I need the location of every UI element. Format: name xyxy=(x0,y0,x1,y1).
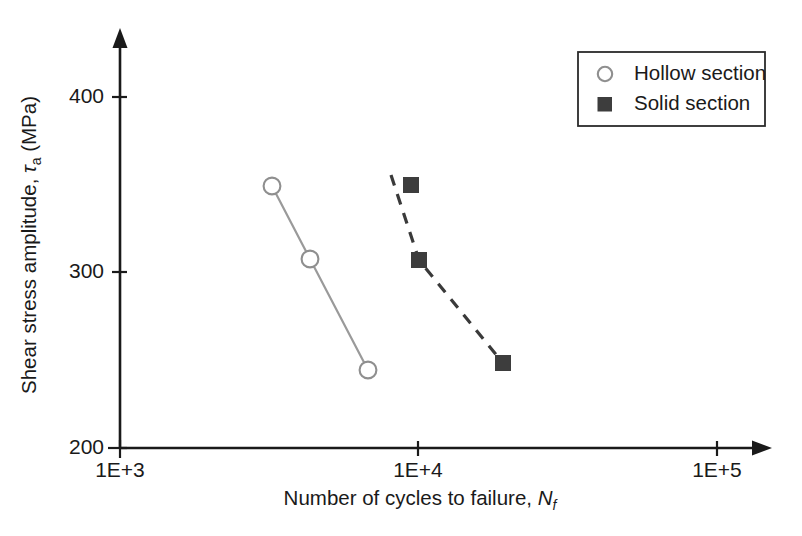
x-axis-title: Number of cycles to failure, Nf xyxy=(284,486,559,513)
y-axis-ticks xyxy=(108,97,127,448)
x-tick-label-1e4: 1E+4 xyxy=(393,458,443,481)
hollow-section-point-3 xyxy=(360,362,377,379)
solid-section-trend-line xyxy=(391,175,503,363)
hollow-section-trend-line xyxy=(272,186,368,370)
chart-canvas: 400 300 200 1E+3 1E+4 1E+5 Number of cyc… xyxy=(0,0,802,536)
y-axis-title: Shear stress amplitude, τa (MPa) xyxy=(17,96,44,394)
solid-section-point-1 xyxy=(404,178,419,193)
y-axis-arrow xyxy=(113,28,128,48)
chart-figure: 400 300 200 1E+3 1E+4 1E+5 Number of cyc… xyxy=(0,0,802,536)
legend-filled-square-icon xyxy=(598,98,612,112)
hollow-section-point-1 xyxy=(264,178,281,195)
hollow-section-point-2 xyxy=(302,251,319,268)
x-tick-label-1e5: 1E+5 xyxy=(692,458,742,481)
legend-open-circle-icon xyxy=(598,67,612,81)
solid-section-point-3 xyxy=(496,356,511,371)
chart-legend: Hollow section Solid section xyxy=(578,52,766,126)
solid-section-point-2 xyxy=(412,253,427,268)
legend-label-hollow-section: Hollow section xyxy=(634,61,766,84)
x-axis xyxy=(120,441,772,456)
y-axis xyxy=(113,28,128,448)
legend-label-solid-section: Solid section xyxy=(634,91,750,114)
y-tick-label-300: 300 xyxy=(69,259,104,282)
y-tick-label-400: 400 xyxy=(69,84,104,107)
y-tick-label-200: 200 xyxy=(69,435,104,458)
series-hollow-section xyxy=(264,178,377,379)
series-solid-section xyxy=(391,175,511,371)
x-tick-label-1e3: 1E+3 xyxy=(95,458,145,481)
x-axis-arrow xyxy=(752,441,772,456)
